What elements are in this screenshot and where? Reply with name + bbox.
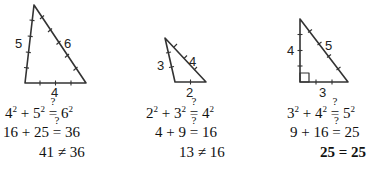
equation-line-1: 22 + 32 ?= 42 bbox=[146, 105, 214, 121]
equation-result: 25 = 25 bbox=[320, 145, 366, 160]
equation-result: 13 ≠ 16 bbox=[179, 145, 225, 160]
side-label-base: 3 bbox=[319, 86, 326, 99]
side-label-left: 5 bbox=[15, 37, 22, 50]
side-label-hypotenuse: 4 bbox=[189, 55, 196, 68]
side-label-left: 4 bbox=[287, 44, 294, 57]
side-label-hypotenuse: 5 bbox=[325, 39, 332, 52]
equation-line-1: 32 + 42 ?= 52 bbox=[287, 105, 355, 121]
equation-line-2: 16 + 25 ?= 36 bbox=[3, 125, 80, 140]
equation-line-1: 42 + 52 ?= 62 bbox=[5, 105, 73, 121]
triangle-5-6-4 bbox=[25, 5, 86, 83]
equation-line-2: 4 + 9 ?= 16 bbox=[155, 125, 217, 140]
right-angle-marker bbox=[300, 73, 309, 82]
side-label-left: 3 bbox=[157, 59, 164, 72]
equation-result: 41 ≠ 36 bbox=[39, 145, 85, 160]
side-label-hypotenuse: 6 bbox=[64, 37, 71, 50]
equation-line-2: 9 + 16 ?= 25 bbox=[290, 125, 359, 140]
triangle-3-4-2 bbox=[165, 38, 206, 82]
